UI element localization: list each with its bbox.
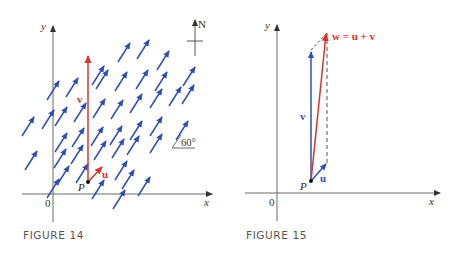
figure-15: y x 0 P v u w = u + v (245, 19, 440, 221)
fig15-u-label: u (320, 172, 326, 184)
figure-14: y x 0 P v u N 60° (22, 18, 212, 222)
figure-15-caption: FIGURE 15 (246, 229, 307, 241)
fig14-v-label: v (77, 93, 83, 105)
fig14-point-label: P (77, 181, 85, 193)
fig15-vector-w (311, 34, 326, 181)
fig15-x-label: x (428, 195, 434, 207)
fig15-sum-label: w = u + v (332, 30, 376, 42)
fig14-x-label: x (203, 196, 209, 208)
fig15-origin-label: 0 (269, 196, 275, 208)
fig14-u-label: u (102, 168, 108, 180)
fig14-vector-u (88, 167, 102, 182)
fig15-point-p (309, 179, 313, 183)
fig15-point-label: P (299, 180, 307, 192)
fig14-y-label: y (40, 20, 46, 32)
fig15-y-label: y (264, 19, 270, 31)
figure-14-caption: FIGURE 14 (23, 229, 84, 241)
fig14-point-p (86, 180, 90, 184)
fig14-vector-field (22, 40, 195, 209)
fig14-compass-n-label: N (198, 18, 206, 30)
fig14-origin-label: 0 (45, 197, 51, 209)
figures-canvas: y x 0 P v u N 60° y x 0 P v u w = u + v (0, 0, 457, 258)
fig14-angle-label: 60° (181, 137, 196, 148)
fig15-v-label: v (300, 110, 306, 122)
